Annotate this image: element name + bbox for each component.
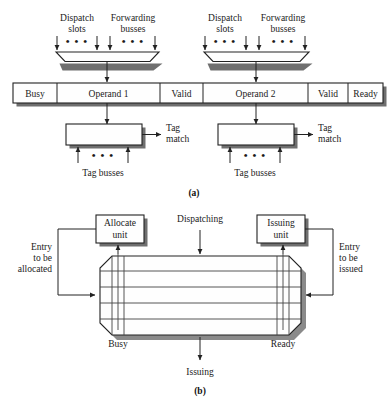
panel-b-caption: (b) <box>194 386 206 397</box>
forwarding-busses-label-left-line1: Forwarding <box>111 13 156 23</box>
entry-to-be-allocated-line3: allocated <box>18 264 53 274</box>
entry-bar: Busy Operand 1 Valid Operand 2 Valid Rea… <box>13 83 387 107</box>
entry-to-be-issued-line2: to be <box>339 253 358 263</box>
comparator-right-box <box>218 124 294 145</box>
mux-right-trapezoid <box>204 52 309 62</box>
panel-a: Dispatch slots Forwarding busses • • • •… <box>13 13 387 199</box>
entry-to-be-allocated-line1: Entry <box>31 242 52 252</box>
comparator-left-group: Tag match • • • Tag busses <box>66 103 189 178</box>
tag-match-label-left-line2: match <box>166 134 189 144</box>
mux-left-group: Dispatch slots Forwarding busses • • • •… <box>56 13 163 82</box>
dispatch-slots-label-left-line1: Dispatch <box>60 13 94 23</box>
issuing-feedback-path <box>305 229 333 295</box>
panel-a-caption: (a) <box>188 188 199 199</box>
mux-right-ellipsis-2: • • • <box>272 35 295 47</box>
tag-busses-label-left: Tag busses <box>82 168 124 178</box>
comparator-left-box <box>66 124 142 145</box>
panel-b: Allocate unit Issuing unit <box>18 214 363 397</box>
entry-cell-operand-2: Operand 2 <box>236 89 276 99</box>
comparator-left-ellipsis: • • • <box>92 149 115 161</box>
entry-cell-valid-2: Valid <box>318 89 338 99</box>
issuing-unit-label-line2: unit <box>274 230 289 240</box>
allocate-feedback-path <box>58 229 96 295</box>
mux-left-ellipsis-1: • • • <box>66 35 89 47</box>
busy-column-label: Busy <box>108 339 128 349</box>
entry-to-be-issued-line3: issued <box>339 264 363 274</box>
reservation-station-buffer: Busy Ready <box>100 254 306 349</box>
tag-match-label-right-line1: Tag <box>318 123 332 133</box>
forwarding-busses-label-right-line2: busses <box>271 24 296 34</box>
tag-match-label-left-line1: Tag <box>166 123 180 133</box>
tag-match-label-right-line2: match <box>318 134 341 144</box>
issuing-label: Issuing <box>186 367 214 377</box>
issuing-unit-label-line1: Issuing <box>267 218 295 228</box>
buffer-outline <box>100 256 301 335</box>
forwarding-busses-label-left-line2: busses <box>121 24 146 34</box>
allocate-unit-label-line2: unit <box>113 230 128 240</box>
entry-to-be-issued-line1: Entry <box>339 242 360 252</box>
dispatch-slots-label-right-line1: Dispatch <box>208 13 242 23</box>
mux-right-ellipsis-1: • • • <box>214 35 237 47</box>
entry-cell-ready: Ready <box>353 89 378 99</box>
dispatching-label: Dispatching <box>177 214 223 224</box>
forwarding-busses-label-right-line1: Forwarding <box>261 13 306 23</box>
mux-left-ellipsis-2: • • • <box>122 35 145 47</box>
mux-right-shadow <box>208 64 313 71</box>
issuing-unit: Issuing unit <box>257 215 309 247</box>
figure-root: Dispatch slots Forwarding busses • • • •… <box>0 0 389 401</box>
entry-cell-valid-1: Valid <box>171 89 191 99</box>
mux-left-shadow <box>60 64 163 71</box>
ready-column-label: Ready <box>271 339 296 349</box>
reservation-station-figure: Dispatch slots Forwarding busses • • • •… <box>0 0 389 401</box>
comparator-right-ellipsis: • • • <box>244 149 267 161</box>
entry-to-be-allocated-line2: to be <box>33 253 52 263</box>
tag-busses-label-right: Tag busses <box>234 168 276 178</box>
mux-right-group: Dispatch slots Forwarding busses • • • •… <box>204 13 313 82</box>
entry-cell-operand-1: Operand 1 <box>89 89 129 99</box>
entry-cell-busy: Busy <box>25 89 45 99</box>
dispatch-slots-label-left-line2: slots <box>68 24 86 34</box>
allocate-unit: Allocate unit <box>96 215 148 247</box>
comparator-right-group: Tag match • • • Tag busses <box>218 103 341 178</box>
dispatch-slots-label-right-line2: slots <box>216 24 234 34</box>
allocate-unit-label-line1: Allocate <box>104 218 136 228</box>
mux-left-trapezoid <box>56 52 159 62</box>
